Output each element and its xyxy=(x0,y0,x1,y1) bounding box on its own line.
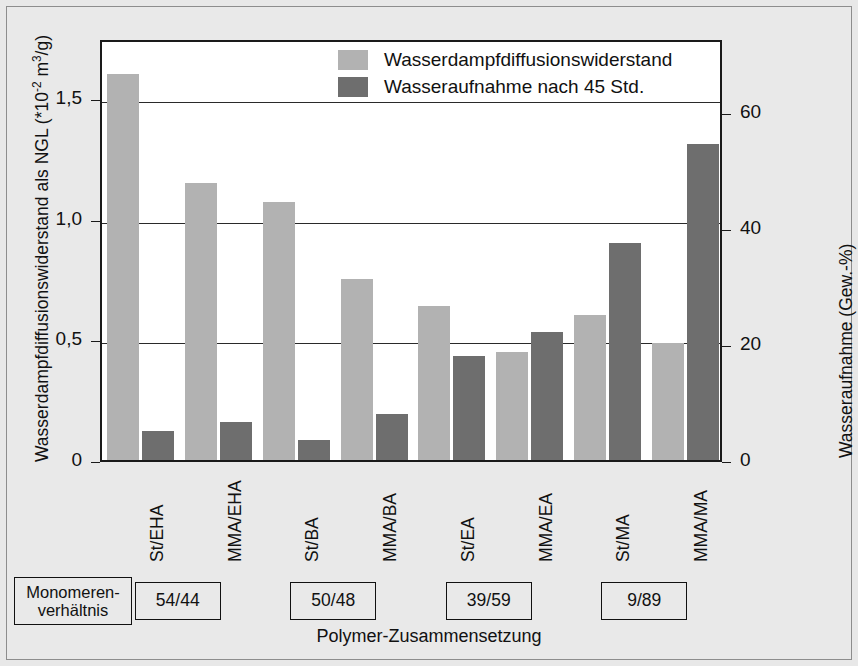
legend-swatch-dark xyxy=(338,77,368,97)
y-axis-right-title: Wasseraufnahme (Gew.-%) xyxy=(836,244,857,458)
x-axis-category-label: MMA/EA xyxy=(536,493,557,562)
y-axis-left-title-tail2: /g) xyxy=(32,35,52,55)
x-axis-category-label: MMA/BA xyxy=(380,493,401,562)
y-axis-left-ticklabel: 0 xyxy=(14,449,82,471)
y-axis-right-tick xyxy=(722,462,731,463)
y-axis-right-ticklabel: 0 xyxy=(740,449,751,471)
y-axis-left-title-text: Wasserdampfdiffusionswiderstand als NGL … xyxy=(32,92,52,462)
bar-group xyxy=(185,42,252,460)
bar-wasseraufnahme xyxy=(142,431,174,460)
bar-wasseraufnahme xyxy=(220,422,252,460)
x-axis-category-label: St/EA xyxy=(458,517,479,562)
bar-wasseraufnahme xyxy=(298,440,330,460)
y-axis-right-tick xyxy=(722,230,731,231)
x-axis-title: Polymer-Zusammensetzung xyxy=(0,626,858,647)
y-axis-left-tick xyxy=(91,341,100,342)
bar-wasseraufnahme xyxy=(687,144,719,460)
x-axis-category-labels: St/EHAMMA/EHASt/BAMMA/BASt/EAMMA/EASt/MA… xyxy=(100,466,722,566)
legend-label: Wasserdampfdiffusionswiderstand xyxy=(384,49,672,71)
bar-group xyxy=(574,42,641,460)
x-axis-category-label: MMA/EHA xyxy=(225,480,246,562)
monomer-ratio-box: 9/89 xyxy=(601,582,687,620)
y-axis-left-ticklabel: 1,0 xyxy=(14,208,82,230)
bar-wasserdampfdiffusionswiderstand xyxy=(496,352,528,461)
bar-wasserdampfdiffusionswiderstand xyxy=(185,183,217,460)
y-axis-left-ticklabel: 1,5 xyxy=(14,87,82,109)
y-axis-left-tick xyxy=(91,221,100,222)
bar-wasseraufnahme xyxy=(453,356,485,460)
y-axis-left-ticklabel: 0,5 xyxy=(14,328,82,350)
y-axis-left-tick xyxy=(91,100,100,101)
bar-wasserdampfdiffusionswiderstand xyxy=(574,315,606,460)
bar-wasseraufnahme xyxy=(376,414,408,460)
bar-group xyxy=(107,42,174,460)
bar-group xyxy=(496,42,563,460)
y-axis-right-tick xyxy=(722,346,731,347)
x-axis-category-label: MMA/MA xyxy=(691,490,712,562)
bar-wasserdampfdiffusionswiderstand xyxy=(107,74,139,460)
x-axis-category-label: St/EHA xyxy=(147,505,168,562)
y-axis-left-tick xyxy=(91,462,100,463)
legend-item: Wasseraufnahme nach 45 Std. xyxy=(338,73,698,100)
monomer-ratio-box: 54/44 xyxy=(135,582,221,620)
monomer-ratio-box: 39/59 xyxy=(446,582,532,620)
monomer-ratio-title-line2: verhältnis xyxy=(26,601,120,619)
x-axis-category-label: St/MA xyxy=(613,514,634,562)
bar-wasserdampfdiffusionswiderstand xyxy=(263,202,295,460)
bar-group xyxy=(652,42,719,460)
chart-legend: WasserdampfdiffusionswiderstandWasserauf… xyxy=(338,46,698,100)
y-axis-right-ticklabel: 40 xyxy=(740,217,761,239)
y-axis-right-ticklabel: 60 xyxy=(740,101,761,123)
monomer-ratio-title-line1: Monomeren- xyxy=(26,583,120,601)
bar-group xyxy=(263,42,330,460)
bar-wasseraufnahme xyxy=(531,332,563,460)
monomer-ratio-title-box: Monomeren- verhältnis xyxy=(14,577,132,625)
y-axis-left-title-tail: m xyxy=(32,62,52,81)
bar-group xyxy=(418,42,485,460)
bar-wasserdampfdiffusionswiderstand xyxy=(341,279,373,460)
x-axis-category-label: St/BA xyxy=(302,517,323,562)
bar-series-container xyxy=(102,42,720,460)
bar-group xyxy=(341,42,408,460)
y-axis-right-ticklabel: 20 xyxy=(740,333,761,355)
legend-label: Wasseraufnahme nach 45 Std. xyxy=(384,76,644,98)
legend-swatch-light xyxy=(338,50,368,70)
plot-area xyxy=(100,40,722,462)
bar-wasseraufnahme xyxy=(609,243,641,460)
y-axis-right-tick xyxy=(722,114,731,115)
bar-wasserdampfdiffusionswiderstand xyxy=(418,306,450,460)
legend-item: Wasserdampfdiffusionswiderstand xyxy=(338,46,698,73)
figure-container: Wasserdampfdiffusionswiderstand als NGL … xyxy=(0,0,858,666)
y-axis-left-title-exponent2: 3 xyxy=(30,55,44,62)
bar-wasserdampfdiffusionswiderstand xyxy=(652,343,684,460)
monomer-ratio-box: 50/48 xyxy=(290,582,376,620)
